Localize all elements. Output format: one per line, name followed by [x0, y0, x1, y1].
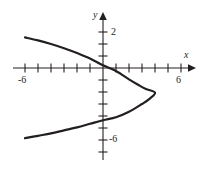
y-axis: [99, 12, 108, 160]
x-axis-label: x: [184, 50, 188, 60]
y-tick-label-negative-6: -6: [109, 134, 117, 144]
plot-canvas: [0, 0, 201, 169]
x-axis-arrowhead: [188, 64, 196, 72]
y-tick-label-positive-2: 2: [111, 27, 116, 37]
x-tick-label-negative-6: -6: [18, 75, 26, 85]
x-tick-label-positive-6: 6: [176, 75, 181, 85]
parabola-curve: [25, 37, 155, 138]
y-axis-label: y: [93, 10, 97, 20]
graph-figure: x y -6 6 2 -6: [0, 0, 201, 169]
y-axis-arrowhead: [99, 12, 107, 20]
